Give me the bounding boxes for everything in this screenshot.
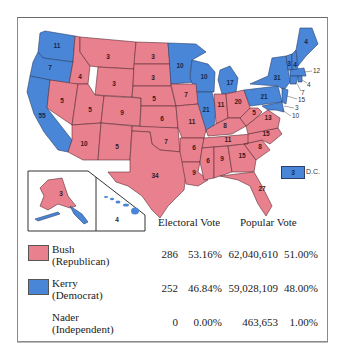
label-ne: 5 — [152, 95, 156, 102]
label-sd: 3 — [151, 74, 155, 81]
label-ma: 12 — [313, 67, 321, 74]
label-ms: 6 — [206, 157, 210, 164]
popular-pct: 48.00% — [278, 282, 318, 294]
label-al: 9 — [220, 155, 224, 162]
label-la: 9 — [192, 169, 196, 176]
popular-votes: 463,653 — [222, 316, 278, 328]
democrat-swatch — [28, 279, 49, 295]
label-de: 3 — [295, 104, 299, 111]
label-nj: 15 — [298, 96, 306, 103]
label-ut: 5 — [88, 106, 92, 113]
label-in: 11 — [218, 101, 225, 108]
label-ks: 6 — [160, 115, 164, 122]
label-wa: 11 — [54, 42, 61, 49]
state-kansas — [140, 106, 178, 128]
label-nv: 5 — [60, 97, 64, 104]
electoral-votes: 0 — [156, 316, 178, 328]
state-connecticut — [290, 76, 298, 84]
republican-swatch — [28, 245, 49, 261]
popular-votes: 59,028,109 — [222, 282, 278, 294]
label-ky: 8 — [223, 122, 227, 129]
electoral-pct: 46.84% — [178, 282, 222, 294]
candidate-party: (Independent) — [52, 323, 114, 335]
label-wy: 3 — [112, 80, 116, 87]
popular-pct: 1.00% — [278, 316, 318, 328]
label-hi: 4 — [115, 216, 119, 223]
label-ri: 4 — [307, 81, 311, 88]
label-mo: 11 — [189, 118, 196, 125]
label-nc: 15 — [262, 130, 270, 137]
state-new-mexico — [98, 123, 132, 160]
label-az: 10 — [80, 140, 88, 147]
electoral-pct: 0.00% — [178, 316, 222, 328]
electoral-votes: 252 — [156, 282, 178, 294]
label-ar: 6 — [192, 144, 196, 151]
label-ak: 3 — [59, 190, 63, 197]
label-ca: 55 — [38, 112, 46, 119]
state-florida — [220, 172, 272, 216]
candidate-party: (Democrat) — [52, 289, 103, 301]
candidate-name: Bush — [52, 243, 109, 255]
label-tn: 11 — [225, 136, 232, 143]
label-pa: 21 — [260, 93, 268, 100]
state-maine — [296, 28, 318, 66]
label-ia: 7 — [184, 91, 188, 98]
state-rhode-island — [298, 76, 302, 82]
label-sc: 8 — [258, 143, 262, 150]
candidate-name: Nader — [52, 311, 114, 323]
electoral-votes: 286 — [156, 248, 178, 260]
label-mt: 3 — [106, 53, 110, 60]
label-il: 21 — [202, 106, 210, 113]
header-popular-vote: Popular Vote — [240, 216, 297, 228]
label-fl: 27 — [258, 185, 266, 192]
header-electoral-vote: Electoral Vote — [158, 216, 220, 228]
label-ct: 7 — [301, 89, 305, 96]
table-row-bush: Bush (Republican) 286 53.16% 62,040,610 … — [28, 243, 328, 273]
dc-swatch: 3 — [281, 166, 305, 179]
label-md: 10 — [292, 112, 300, 119]
label-mi: 17 — [226, 79, 234, 86]
label-co: 9 — [120, 109, 124, 116]
popular-votes: 62,040,610 — [222, 248, 278, 260]
label-oh: 20 — [234, 98, 242, 105]
label-tx: 34 — [151, 172, 159, 179]
candidate-label: Bush (Republican) — [52, 243, 109, 267]
label-id: 4 — [78, 73, 82, 80]
label-nd: 3 — [151, 53, 155, 60]
popular-pct: 51.00% — [278, 248, 318, 260]
label-vt: 3 — [287, 60, 291, 67]
electoral-pct: 53.16% — [178, 248, 222, 260]
candidate-name: Kerry — [52, 277, 103, 289]
label-va: 13 — [264, 114, 272, 121]
label-ny: 31 — [273, 74, 281, 81]
table-row-kerry: Kerry (Democrat) 252 46.84% 59,028,109 4… — [28, 277, 328, 307]
label-me: 4 — [304, 38, 308, 45]
label-nm: 5 — [115, 143, 119, 150]
candidate-label: Nader (Independent) — [52, 311, 114, 335]
state-new-york — [250, 56, 290, 90]
label-nh: 4 — [293, 61, 297, 68]
label-mn: 10 — [176, 62, 184, 69]
label-wv: 5 — [252, 109, 256, 116]
label-ok: 7 — [164, 138, 168, 145]
label-wi: 10 — [200, 73, 208, 80]
candidate-label: Kerry (Democrat) — [52, 277, 103, 301]
dc-label: D.C. — [306, 168, 320, 175]
candidate-party: (Republican) — [52, 255, 109, 267]
label-ga: 15 — [238, 152, 246, 159]
table-row-nader: Nader (Independent) 0 0.00% 463,653 1.00… — [28, 311, 328, 341]
label-or: 7 — [48, 64, 52, 71]
